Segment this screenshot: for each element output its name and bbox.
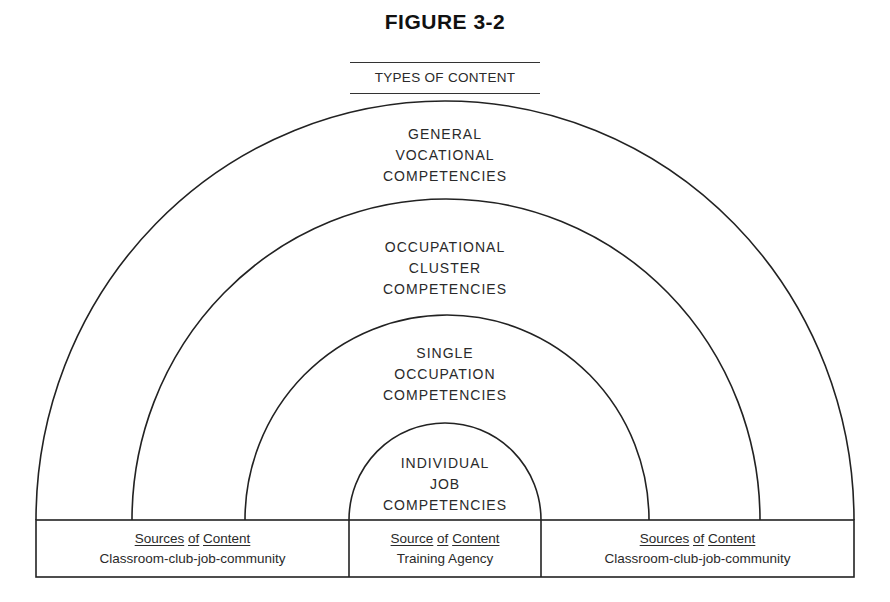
label-cluster: OCCUPATIONAL CLUSTER COMPETENCIES	[345, 237, 545, 300]
label-single: SINGLE OCCUPATION COMPETENCIES	[345, 343, 545, 406]
sources-left: Sources of Content Classroom-club-job-co…	[36, 529, 349, 569]
sources-center: Source of Content Training Agency	[349, 529, 541, 569]
sources-right: Sources of Content Classroom-club-job-co…	[541, 529, 854, 569]
label-individual: INDIVIDUAL JOB COMPETENCIES	[345, 453, 545, 516]
label-general: GENERAL VOCATIONAL COMPETENCIES	[345, 124, 545, 187]
